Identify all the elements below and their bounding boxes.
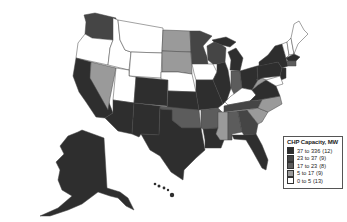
map-legend: CHP Capacity, MW 37 to 336 (12) 23 to 37…: [283, 136, 343, 189]
legend-count: (12): [322, 148, 332, 154]
legend-item: 5 to 17 (9): [287, 170, 339, 178]
legend-title: CHP Capacity, MW: [287, 139, 339, 145]
legend-item: 37 to 336 (12): [287, 147, 339, 155]
state-wyoming: [129, 52, 162, 78]
state-hawaii: [154, 183, 175, 198]
state-alaska: [40, 130, 134, 216]
state-mississippi: [216, 112, 228, 140]
legend-range: 5 to 17: [297, 170, 314, 176]
state-michigan: [228, 48, 243, 71]
legend-count: (9): [316, 170, 323, 176]
legend-range: 0 to 5: [297, 178, 311, 184]
legend-item: 23 to 37 (9): [287, 155, 339, 163]
state-iowa: [192, 64, 217, 80]
legend-swatch: [287, 170, 294, 177]
legend-swatch: [287, 155, 294, 162]
state-south-dakota: [162, 51, 192, 74]
legend-item: 17 to 23 (8): [287, 162, 339, 170]
state-colorado: [134, 77, 168, 106]
legend-count: (13): [313, 178, 323, 184]
legend-range: 17 to 23: [297, 163, 317, 169]
us-choropleth-map: [0, 0, 347, 222]
legend-range: 37 to 336: [297, 148, 320, 154]
state-new-mexico: [132, 103, 160, 137]
legend-count: (9): [319, 155, 326, 161]
legend-count: (8): [319, 163, 326, 169]
legend-swatch: [287, 147, 294, 154]
legend-item: 0 to 5 (13): [287, 177, 339, 185]
state-maine: [291, 21, 308, 54]
state-connecticut-ri: [287, 61, 296, 66]
legend-swatch: [287, 177, 294, 184]
state-montana: [118, 20, 163, 53]
state-north-dakota: [162, 30, 191, 52]
legend-range: 23 to 37: [297, 155, 317, 161]
state-florida: [232, 134, 268, 170]
legend-swatch: [287, 162, 294, 169]
